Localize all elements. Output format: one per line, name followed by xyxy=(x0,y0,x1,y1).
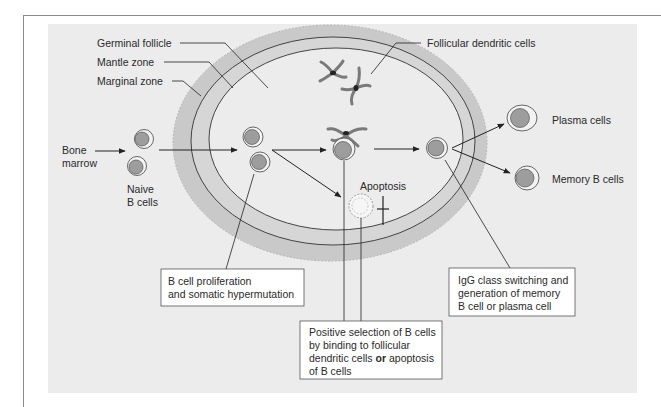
label-follicular-dendritic-cells: Follicular dendritic cells xyxy=(427,37,536,49)
label-memory-b-cells: Memory B cells xyxy=(552,173,624,185)
label-mantle-zone: Mantle zone xyxy=(97,56,154,68)
svg-text:generation of memory: generation of memory xyxy=(458,287,561,299)
label-bone-marrow: marrow xyxy=(62,157,97,169)
svg-text:B cell or plasma cell: B cell or plasma cell xyxy=(458,300,551,312)
label-apoptosis: Apoptosis xyxy=(360,180,406,192)
svg-text:of B cells: of B cells xyxy=(309,365,352,377)
label-marginal-zone: Marginal zone xyxy=(97,75,163,87)
callout-positive-selection: Positive selection of B cells by binding… xyxy=(300,321,442,379)
proliferating-b-cell-icon xyxy=(250,152,270,172)
label-plasma-cells: Plasma cells xyxy=(552,114,611,126)
plasma-cell-icon xyxy=(507,105,537,131)
callout-proliferation: B cell proliferation and somatic hypermu… xyxy=(161,269,304,306)
callout-class-switching: IgG class switching and generation of me… xyxy=(449,268,575,316)
label-bone-marrow: Bone xyxy=(62,144,87,156)
svg-text:Positive selection of B cells: Positive selection of B cells xyxy=(309,326,436,338)
naive-b-cell-icon xyxy=(128,157,147,176)
svg-text:by binding to follicular: by binding to follicular xyxy=(309,339,410,351)
germinal-center-diagram: Germinal follicle Mantle zone Marginal z… xyxy=(0,0,661,407)
svg-text:IgG class switching and: IgG class switching and xyxy=(458,274,568,286)
svg-text:B cell proliferation: B cell proliferation xyxy=(168,275,252,287)
naive-b-cell-icon xyxy=(135,130,154,149)
svg-text:and somatic hypermutation: and somatic hypermutation xyxy=(168,288,294,300)
label-germinal-follicle: Germinal follicle xyxy=(97,37,172,49)
svg-text:dendritic cells or apoptosis: dendritic cells or apoptosis xyxy=(309,352,434,364)
class-switched-b-cell-icon xyxy=(427,138,448,159)
proliferating-b-cell-icon xyxy=(243,127,263,147)
memory-b-cell-icon xyxy=(515,166,539,190)
label-naive-b-cells: Naive xyxy=(127,183,154,195)
label-naive-b-cells: B cells xyxy=(127,196,158,208)
apoptotic-cell-icon xyxy=(349,194,373,218)
